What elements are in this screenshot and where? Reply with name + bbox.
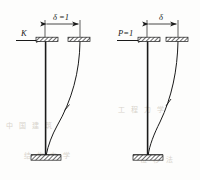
slider-support-original [36, 37, 58, 41]
reaction-force-label: K [20, 28, 28, 38]
figure-container: 中 国 建 筑 工 程 力 学 结 构 力 学 位 移 法 δ =1 K [0, 0, 200, 180]
slider-support-original [138, 37, 160, 41]
deflected-column-curve [148, 41, 178, 155]
dimension-label: δ =1 [53, 12, 69, 22]
watermark-text: 工 程 力 学 [118, 105, 166, 114]
applied-load-label: P=1 [117, 28, 133, 38]
slider-support-displaced [166, 37, 188, 41]
dimension-label: δ [159, 12, 164, 22]
unit-displacement-panel: δ =1 K [16, 12, 90, 160]
slider-support-displaced [68, 37, 90, 41]
fixed-support-base [133, 155, 163, 160]
structural-diagram: 中 国 建 筑 工 程 力 学 结 构 力 学 位 移 法 δ =1 K [0, 0, 200, 180]
watermark-text: 中 国 建 筑 [6, 121, 54, 130]
fixed-support-base [31, 155, 61, 160]
deflected-column-curve [46, 41, 80, 155]
unit-force-panel: δ P=1 [117, 12, 188, 160]
